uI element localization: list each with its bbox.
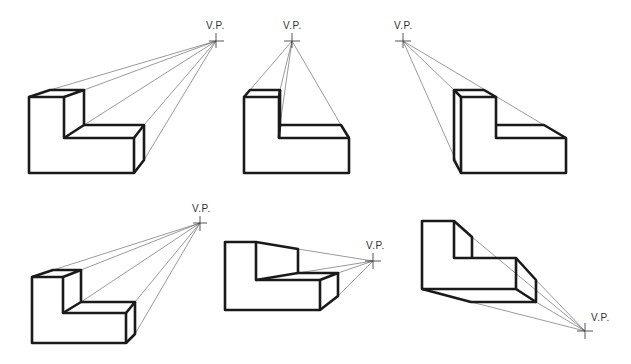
figure-6 bbox=[422, 221, 593, 339]
perspective-diagram bbox=[0, 0, 631, 364]
vp-marker-2 bbox=[284, 33, 300, 48]
figure-5 bbox=[225, 242, 381, 310]
vp-marker-3 bbox=[395, 33, 411, 48]
vp-label-1: V.P. bbox=[206, 20, 225, 31]
vp-label-3: V.P. bbox=[394, 20, 413, 31]
vp-label-6: V.P. bbox=[591, 312, 610, 323]
vp-label-2: V.P. bbox=[283, 20, 302, 31]
figure-2 bbox=[244, 33, 349, 173]
vp-marker-1 bbox=[209, 33, 224, 48]
figure-3 bbox=[395, 33, 566, 173]
figure-4 bbox=[32, 216, 207, 343]
figure-1 bbox=[29, 33, 224, 173]
vp-label-4: V.P. bbox=[192, 203, 211, 214]
vp-label-5: V.P. bbox=[366, 240, 385, 251]
